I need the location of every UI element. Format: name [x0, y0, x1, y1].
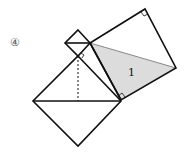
region-label: 1 [128, 66, 135, 79]
geometry-diagram [0, 0, 188, 153]
right-angle-mark [81, 53, 84, 58]
